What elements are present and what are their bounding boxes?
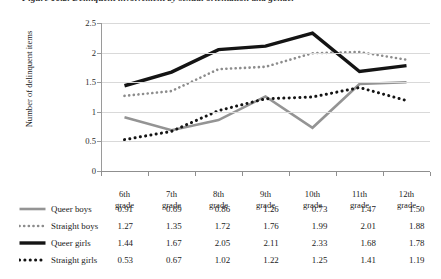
table-cell-value: 1.67 bbox=[150, 238, 199, 248]
y-axis-tick-label: 1 bbox=[72, 107, 96, 117]
x-axis-category-line: 9th bbox=[242, 189, 289, 200]
x-axis-tick-mark bbox=[430, 172, 431, 176]
table-cell-value: 2.11 bbox=[247, 238, 296, 248]
gridline bbox=[101, 53, 430, 54]
y-axis-tick-label: 0.5 bbox=[72, 136, 96, 146]
gridline bbox=[101, 23, 430, 24]
x-axis-category-line: 6th bbox=[101, 189, 148, 200]
table-cell-value: 1.88 bbox=[392, 221, 441, 231]
legend-swatch-icon bbox=[19, 239, 46, 247]
y-axis-tick-label: 1.5 bbox=[72, 77, 96, 87]
table-cell-value: 1.68 bbox=[344, 238, 393, 248]
table-row: Straight girls0.530.671.021.221.251.411.… bbox=[0, 252, 441, 269]
gridline bbox=[101, 82, 430, 83]
table-cell-value: 0.91 bbox=[101, 204, 150, 214]
legend-item: Queer girls bbox=[0, 238, 101, 248]
x-axis-category-line: 8th bbox=[195, 189, 242, 200]
legend-swatch-icon bbox=[19, 256, 46, 264]
legend-swatch-icon bbox=[19, 222, 46, 230]
table-cell-value: 2.33 bbox=[295, 238, 344, 248]
y-axis-tick-mark bbox=[97, 23, 101, 24]
table-cell-value: 1.47 bbox=[344, 204, 393, 214]
x-axis-category-line: 7th bbox=[148, 189, 195, 200]
gridline bbox=[101, 112, 430, 113]
x-axis-tick-mark bbox=[383, 172, 384, 176]
x-axis-line bbox=[101, 171, 430, 172]
table-cell-value: 1.19 bbox=[392, 255, 441, 265]
legend-label: Queer boys bbox=[51, 204, 92, 214]
x-axis-tick-mark bbox=[148, 172, 149, 176]
data-table: Queer boys0.910.690.861.260.731.471.50St… bbox=[0, 200, 441, 269]
plot-inner bbox=[101, 23, 430, 171]
y-axis-tick-mark bbox=[97, 53, 101, 54]
table-cell-value: 1.78 bbox=[392, 238, 441, 248]
table-cell-value: 1.26 bbox=[247, 204, 296, 214]
table-cell-value: 2.05 bbox=[198, 238, 247, 248]
table-cell-value: 1.35 bbox=[150, 221, 199, 231]
legend-label: Queer girls bbox=[51, 238, 91, 248]
table-cell-value: 0.73 bbox=[295, 204, 344, 214]
x-axis-category-line: 10th bbox=[289, 189, 336, 200]
table-row: Straight boys1.271.351.721.761.992.011.8… bbox=[0, 217, 441, 234]
series-line bbox=[125, 33, 407, 86]
table-cell-value: 1.44 bbox=[101, 238, 150, 248]
x-axis-tick-mark bbox=[242, 172, 243, 176]
gridline bbox=[101, 141, 430, 142]
x-axis-tick-mark bbox=[289, 172, 290, 176]
x-axis-tick-mark bbox=[101, 172, 102, 176]
y-axis-tick-mark bbox=[97, 82, 101, 83]
y-axis-title: Number of delinquent items bbox=[24, 4, 34, 154]
legend-swatch-icon bbox=[19, 205, 46, 213]
table-cell-value: 1.25 bbox=[295, 255, 344, 265]
table-cell-value: 0.67 bbox=[150, 255, 199, 265]
y-axis-tick-mark bbox=[97, 141, 101, 142]
table-cell-value: 1.22 bbox=[247, 255, 296, 265]
table-cell-value: 0.53 bbox=[101, 255, 150, 265]
y-axis-line bbox=[101, 23, 102, 172]
table-row: Queer boys0.910.690.861.260.731.471.50 bbox=[0, 200, 441, 217]
table-row: Queer girls1.441.672.052.112.331.681.78 bbox=[0, 234, 441, 251]
legend-label: Straight girls bbox=[51, 255, 97, 265]
y-axis-tick-label: 2 bbox=[72, 48, 96, 58]
x-axis-category-line: 12th bbox=[383, 189, 430, 200]
legend-label: Straight boys bbox=[51, 221, 98, 231]
table-cell-value: 1.02 bbox=[198, 255, 247, 265]
x-axis-tick-mark bbox=[336, 172, 337, 176]
table-cell-value: 1.27 bbox=[101, 221, 150, 231]
plot-area bbox=[101, 12, 430, 172]
x-axis-tick-mark bbox=[195, 172, 196, 176]
table-cell-value: 1.41 bbox=[344, 255, 393, 265]
line-chart: Number of delinquent items 00.511.522.5 … bbox=[0, 12, 441, 202]
figure-caption: Figure 10.2. Delinquent involvement by s… bbox=[22, 0, 432, 4]
table-cell-value: 2.01 bbox=[344, 221, 393, 231]
table-cell-value: 1.99 bbox=[295, 221, 344, 231]
table-cell-value: 0.86 bbox=[198, 204, 247, 214]
table-cell-value: 1.76 bbox=[247, 221, 296, 231]
y-axis-tick-labels: 00.511.522.5 bbox=[72, 12, 96, 172]
table-cell-value: 1.72 bbox=[198, 221, 247, 231]
y-axis-tick-label: 2.5 bbox=[72, 18, 96, 28]
legend-item: Straight boys bbox=[0, 221, 101, 231]
x-axis-category-line: 11th bbox=[336, 189, 383, 200]
table-cell-value: 1.50 bbox=[392, 204, 441, 214]
y-axis-tick-mark bbox=[97, 112, 101, 113]
legend-item: Straight girls bbox=[0, 255, 101, 265]
series-lines bbox=[101, 23, 430, 171]
y-axis-tick-label: 0 bbox=[72, 166, 96, 176]
legend-item: Queer boys bbox=[0, 204, 101, 214]
table-cell-value: 0.69 bbox=[150, 204, 199, 214]
